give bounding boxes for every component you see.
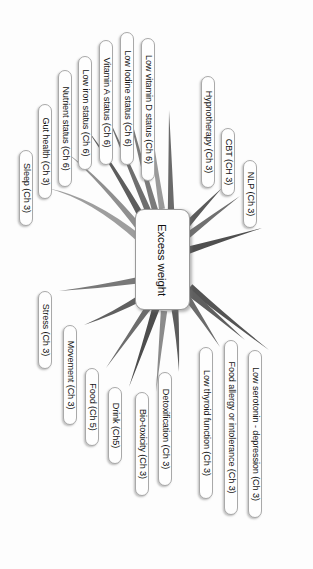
- leaf-node-label: Vitamin A status (Ch 6): [101, 52, 110, 152]
- leaf-node-label: Low serotonin - depression (Ch 3): [250, 362, 259, 506]
- leaf-node[interactable]: Stress (Ch 3): [38, 291, 52, 369]
- leaf-node[interactable]: Food (Ch 5): [85, 368, 99, 446]
- leaf-node-label: Food (Ch 5): [87, 378, 96, 435]
- leaf-node-label: Gut health (Ch 3): [40, 112, 49, 190]
- leaf-node[interactable]: Food allergy or intolerance (Ch 3): [224, 340, 238, 515]
- leaf-node[interactable]: Nutrient status (Ch 6): [58, 70, 72, 187]
- leaf-node[interactable]: Movement (Ch 3): [63, 325, 77, 425]
- central-node-label: Excess weight: [157, 223, 169, 295]
- leaf-node[interactable]: Low serotonin - depression (Ch 3): [248, 350, 262, 518]
- leaf-node-label: Nutrient status (Ch 6): [60, 81, 69, 175]
- leaf-node-label: Low iron status (Ch 6): [80, 65, 89, 162]
- leaf-node[interactable]: Detoxification (Ch 3): [158, 372, 172, 486]
- leaf-node-label: Low vitamin D status (Ch 6): [143, 50, 152, 169]
- leaf-node[interactable]: Vitamin A status (Ch 6): [99, 40, 113, 165]
- leaf-node[interactable]: Drink (Ch5): [108, 387, 122, 464]
- leaf-node-label: Movement (Ch 3): [65, 336, 74, 415]
- leaf-node[interactable]: Sleep (Ch 3): [19, 150, 33, 226]
- leaf-node-label: Sleep (Ch 3): [21, 158, 30, 218]
- leaf-node[interactable]: CBT (CH 3): [221, 128, 235, 196]
- central-node[interactable]: Excess weight: [135, 209, 190, 310]
- leaf-node-label: Detoxification (Ch 3): [160, 384, 169, 474]
- mindmap-canvas: Excess weight Sleep (Ch 3)Gut health (Ch…: [0, 0, 313, 569]
- leaf-node-label: Food allergy or intolerance (Ch 3): [226, 356, 235, 498]
- leaf-node[interactable]: Gut health (Ch 3): [38, 104, 52, 199]
- leaf-node[interactable]: Bio-toxicity (Ch 3): [135, 392, 149, 496]
- leaf-node-label: CBT (CH 3): [223, 134, 232, 190]
- leaf-node-label: NLP (Ch 3): [245, 167, 254, 221]
- leaf-node[interactable]: Low Iodine status (Ch 6): [120, 32, 134, 165]
- leaf-node[interactable]: Low iron status (Ch 6): [78, 56, 92, 170]
- leaf-node-label: Hypnotherapy (Ch 3): [203, 86, 212, 179]
- leaf-node-label: Bio-toxicity (Ch 3): [137, 404, 146, 484]
- leaf-node-label: Low Iodine status (Ch 6): [122, 45, 131, 151]
- leaf-node-label: Low thyroid function (Ch 3): [201, 365, 210, 481]
- leaf-node[interactable]: Low thyroid function (Ch 3): [199, 347, 213, 499]
- leaf-node[interactable]: Hypnotherapy (Ch 3): [201, 76, 215, 188]
- leaf-node-label: Drink (Ch5): [110, 398, 119, 453]
- leaf-node[interactable]: Low vitamin D status (Ch 6): [141, 38, 155, 181]
- leaf-node-label: Stress (Ch 3): [40, 299, 49, 361]
- leaf-node[interactable]: NLP (Ch 3): [243, 160, 257, 228]
- node-layer: Excess weight Sleep (Ch 3)Gut health (Ch…: [0, 0, 313, 569]
